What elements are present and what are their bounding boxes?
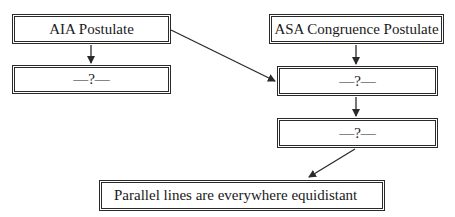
arrow-aia-to-right-unknown-1 [171, 30, 275, 81]
node-label: —?— [339, 125, 376, 142]
node-right-unknown-2: —?— [279, 120, 436, 146]
node-label: —?— [73, 71, 110, 88]
node-left-unknown: —?— [14, 67, 169, 92]
node-label: AIA Postulate [49, 21, 134, 38]
node-conclusion: Parallel lines are everywhere equidistan… [101, 182, 383, 209]
node-asa-congruence-postulate: ASA Congruence Postulate [271, 16, 442, 42]
node-label: ASA Congruence Postulate [274, 21, 438, 38]
node-label: Parallel lines are everywhere equidistan… [114, 187, 357, 204]
node-right-unknown-1: —?— [279, 68, 436, 94]
node-label: —?— [339, 73, 376, 90]
arrow-right-unknown-2-to-conclusion [309, 149, 355, 177]
node-aia-postulate: AIA Postulate [14, 16, 169, 42]
